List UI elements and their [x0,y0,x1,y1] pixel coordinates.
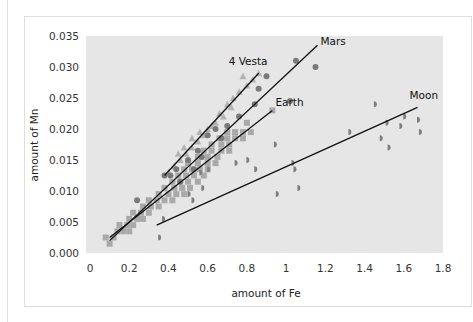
earth-point [156,204,162,210]
earth-point [169,197,175,203]
earth-point [130,222,136,228]
x-tick-label: 1.8 [435,262,452,274]
x-tick-label: 0.6 [199,262,216,274]
earth-point [224,135,230,141]
mars-point [213,126,219,132]
earth-point [173,191,179,197]
earth-point [248,129,254,135]
mars-point [173,166,179,172]
x-tick-label: 0.8 [239,262,256,274]
earth-point [240,135,246,141]
mars-point [264,73,270,79]
x-tick-label: 1.2 [317,262,334,274]
x-tick-label: 1.6 [395,262,412,274]
x-tick-label: 0.4 [160,262,177,274]
y-tick-label: 0.000 [49,247,79,259]
y-tick-label: 0.010 [49,185,79,197]
earth-point [130,210,136,216]
y-tick-label: 0.005 [49,216,79,228]
y-tick-label: 0.015 [49,154,79,166]
mars-line-label: Mars [320,35,345,47]
mars-point [256,86,262,92]
x-axis-label: amount of Fe [231,287,300,299]
y-tick-label: 0.035 [49,30,79,42]
mars-point [167,173,173,179]
4-vesta-line-label: 4 Vesta [229,55,268,67]
earth-point [116,222,122,228]
moon-line-label: Moon [410,89,439,101]
mars-point [205,132,211,138]
x-axis-ticks: 00.20.40.60.811.21.41.61.8 [87,262,452,274]
earth-point [126,228,132,234]
y-axis-ticks: 0.0000.0050.0100.0150.0200.0250.0300.035 [49,30,79,259]
earth-point [195,160,201,166]
earth-point [213,160,219,166]
mars-point [195,148,201,154]
earth-point [146,210,152,216]
earth-point [187,185,193,191]
earth-point [209,148,215,154]
earth-point [195,179,201,185]
y-axis-label: amount of Mn [28,108,40,181]
x-tick-label: 0.2 [121,262,138,274]
mars-point [313,64,319,70]
earth-point [162,197,168,203]
earth-point [244,120,250,126]
earth-point [226,148,232,154]
mars-point [185,157,191,163]
earth-point [181,191,187,197]
mars-point [134,197,140,203]
x-tick-label: 0 [87,262,94,274]
earth-point [107,241,113,247]
x-tick-label: 1 [283,262,290,274]
earth-point [218,142,224,148]
earth-line-label: Earth [275,96,303,108]
y-tick-label: 0.025 [49,92,79,104]
earth-point [140,216,146,222]
earth-point [232,129,238,135]
scatter-chart: 4 VestaMarsEarthMoon 00.20.40.60.811.21.… [0,0,473,322]
y-tick-label: 0.030 [49,61,79,73]
earth-point [179,185,185,191]
y-tick-label: 0.020 [49,123,79,135]
earth-point [103,235,109,241]
earth-point [185,179,191,185]
x-tick-label: 1.4 [356,262,373,274]
